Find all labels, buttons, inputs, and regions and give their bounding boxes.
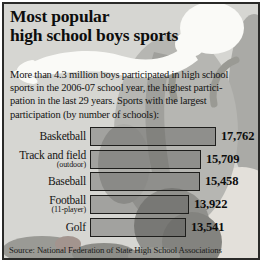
intro-line: participation (by number of schools): (10, 108, 228, 121)
infographic-poster: Most popularhigh school boys sports More… (0, 0, 262, 262)
intro-line: pation in the last 29 years. Sports with… (10, 94, 228, 107)
value-label: 13,922 (194, 197, 227, 212)
intro-line: sports in the 2006-07 school year, the h… (10, 81, 228, 94)
chart-row-baseball: Baseball 15,458 (4, 170, 258, 193)
category-label: Basketball (4, 130, 90, 143)
bar-basketball (90, 127, 216, 146)
page-title: Most popularhigh school boys sports (10, 7, 178, 45)
category-label: Football (11-player) (4, 194, 90, 215)
title-line-2: high school boys sports (10, 25, 178, 45)
source-note: Source: National Federation of State Hig… (9, 245, 222, 255)
bar-golf (90, 218, 186, 237)
chart-row-golf: Golf 13,541 (4, 216, 258, 239)
chart-row-football: Football (11-player) 13,922 (4, 193, 258, 216)
value-label: 15,709 (206, 152, 239, 167)
category-label: Golf (4, 221, 90, 234)
value-label: 17,762 (221, 129, 254, 144)
chart-row-track-and-field: Track and field (outdoor) 15,709 (4, 148, 258, 171)
value-label: 13,541 (191, 220, 224, 235)
bar-chart: Basketball 17,762 Track and field (outdo… (4, 125, 258, 238)
title-line-1: Most popular (10, 6, 109, 26)
infographic-frame: Most popularhigh school boys sports More… (2, 2, 260, 260)
value-label: 15,458 (205, 174, 238, 189)
bar-track-and-field (90, 150, 201, 169)
category-label: Track and field (outdoor) (4, 149, 90, 170)
bar-baseball (90, 172, 200, 191)
bar-football (90, 195, 189, 214)
chart-row-basketball: Basketball 17,762 (4, 125, 258, 148)
category-label: Baseball (4, 175, 90, 188)
intro-line: More than 4.3 million boys participated … (10, 68, 228, 81)
intro-text: More than 4.3 million boys participated … (10, 68, 228, 121)
